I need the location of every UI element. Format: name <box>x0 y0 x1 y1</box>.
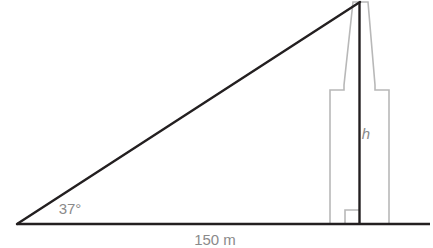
base-length-label: 150 m <box>194 231 236 248</box>
diagram-canvas: 37° 150 m h <box>0 0 433 248</box>
hypotenuse-line <box>17 2 360 224</box>
trigonometry-diagram: 37° 150 m h <box>0 0 433 248</box>
right-angle-marker-icon <box>345 210 359 224</box>
height-label: h <box>362 125 370 142</box>
angle-label: 37° <box>59 200 82 217</box>
